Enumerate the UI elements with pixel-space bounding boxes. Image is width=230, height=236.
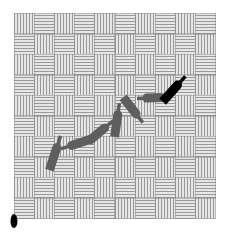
player-marker-icon[interactable] <box>11 214 18 228</box>
bottle-icon[interactable] <box>137 93 163 103</box>
bottle-icon[interactable] <box>45 134 65 171</box>
bottle-icon-black[interactable] <box>159 73 188 104</box>
pieces-layer <box>0 0 230 236</box>
